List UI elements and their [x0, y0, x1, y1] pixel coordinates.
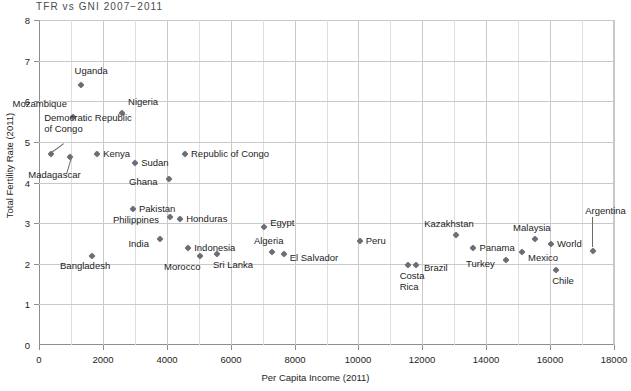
y-axis-tick: [34, 61, 39, 62]
data-label-algeria: Algeria: [254, 236, 284, 247]
x-axis-tick-label: 6000: [220, 354, 241, 365]
x-axis-tick: [614, 345, 615, 350]
y-axis-tick: [34, 183, 39, 184]
chart-title: TFR vs GNI 2007−2011: [36, 1, 163, 12]
data-label-uganda: Uganda: [75, 66, 108, 77]
data-label-argentina: Argentina: [585, 206, 626, 217]
data-label-mexico: Mexico: [528, 253, 558, 264]
data-label-chile: Chile: [552, 276, 574, 287]
data-label-ghana: Ghana: [129, 177, 158, 188]
data-label-nigeria: Nigeria: [128, 97, 158, 108]
x-axis-tick-label: 14000: [473, 354, 499, 365]
y-axis-tick-label: 0: [8, 340, 30, 351]
gridline-horizontal: [39, 101, 614, 102]
data-label-madagascar: Madagascar: [28, 170, 80, 181]
x-axis-tick-label: 16000: [537, 354, 563, 365]
x-axis-tick: [295, 345, 296, 350]
x-axis-tick: [422, 345, 423, 350]
x-axis-title: Per Capita Income (2011): [0, 372, 631, 383]
data-label-philippines: Philippines: [113, 215, 159, 226]
data-label-honduras: Honduras: [186, 214, 227, 225]
gridline-vertical-major: [614, 20, 615, 345]
data-label-mozambique: Mozambique: [13, 99, 67, 110]
data-label-republic-of-congo: Republic of Congo: [191, 149, 269, 160]
data-label-panama: Panama: [479, 243, 514, 254]
x-axis-tick: [231, 345, 232, 350]
y-axis-tick: [34, 20, 39, 21]
data-label-egypt: Egypt: [270, 218, 294, 229]
gridline-horizontal: [39, 61, 614, 62]
gridline-horizontal: [39, 142, 614, 143]
data-label-brazil: Brazil: [424, 263, 448, 274]
data-label-kenya: Kenya: [103, 149, 130, 160]
data-label-malaysia: Malaysia: [513, 223, 551, 234]
y-axis-tick-label: 5: [8, 137, 30, 148]
y-axis-tick-label: 2: [8, 259, 30, 270]
y-axis-tick-label: 8: [8, 15, 30, 26]
y-axis-tick-label: 1: [8, 299, 30, 310]
gridline-horizontal: [39, 304, 614, 305]
y-axis-tick-label: 4: [8, 178, 30, 189]
data-label-sudan: Sudan: [141, 158, 168, 169]
y-axis-tick-label: 7: [8, 56, 30, 67]
data-label-peru: Peru: [366, 236, 386, 247]
x-axis-tick: [486, 345, 487, 350]
y-axis-tick: [34, 304, 39, 305]
x-axis-tick-label: 18000: [601, 354, 627, 365]
data-label-morocco: Morocco: [164, 262, 200, 273]
x-axis-tick: [39, 345, 40, 350]
data-label-sri-lanka: Sri Lanka: [213, 260, 253, 271]
gridline-horizontal: [39, 264, 614, 265]
data-label-pakistan: Pakistan: [139, 204, 175, 215]
y-axis-tick: [34, 142, 39, 143]
gridline-horizontal: [39, 183, 614, 184]
data-label-bangladesh: Bangladesh: [60, 261, 110, 272]
x-axis-tick-label: 8000: [284, 354, 305, 365]
data-label-turkey: Turkey: [466, 259, 495, 270]
y-axis-tick: [34, 223, 39, 224]
x-axis-tick: [550, 345, 551, 350]
x-axis-tick: [167, 345, 168, 350]
data-label-democratic-republic-of-congo: Democratic Republic of Congo: [44, 113, 132, 134]
data-label-kazakhstan: Kazakhstan: [424, 219, 474, 230]
y-axis-tick: [34, 264, 39, 265]
x-axis-tick-label: 4000: [156, 354, 177, 365]
data-label-india: India: [128, 239, 149, 250]
x-axis-tick: [103, 345, 104, 350]
y-axis-tick-label: 3: [8, 218, 30, 229]
data-label-costa-rica: Costa Rica: [400, 271, 425, 292]
scatter-chart-figure: TFR vs GNI 2007−2011 Total Fertility Rat…: [0, 0, 631, 391]
x-axis-tick-label: 0: [36, 354, 41, 365]
x-axis-tick-label: 10000: [345, 354, 371, 365]
x-axis-tick: [358, 345, 359, 350]
data-label-world: World: [557, 239, 582, 250]
x-axis-tick-label: 12000: [409, 354, 435, 365]
data-label-el-salvador: El Salvador: [290, 253, 339, 264]
x-axis-tick-label: 2000: [92, 354, 113, 365]
